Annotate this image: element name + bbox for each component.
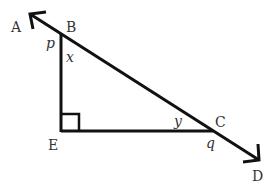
label-point-a: A [10, 19, 22, 35]
label-point-c: C [215, 114, 226, 130]
geometry-diagram: A B C D E p x y q [0, 0, 275, 188]
label-angle-y: y [173, 113, 183, 129]
label-angle-x: x [66, 49, 74, 65]
line-ad [30, 14, 259, 160]
label-angle-p: p [46, 35, 55, 51]
label-point-e: E [48, 137, 58, 153]
label-point-d: D [252, 168, 263, 184]
label-angle-q: q [206, 135, 215, 151]
label-point-b: B [66, 19, 76, 35]
right-angle-marker-icon [62, 114, 79, 131]
